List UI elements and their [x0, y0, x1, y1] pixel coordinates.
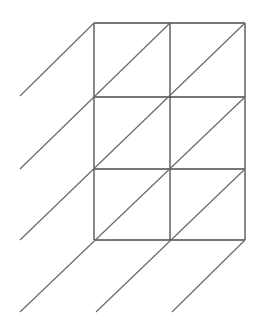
- lattice-grid-diagram: [0, 0, 262, 328]
- diagonal-line: [20, 23, 94, 96]
- diagonal-line: [20, 23, 170, 169]
- grid-lines: [94, 23, 245, 240]
- diagonal-lines: [20, 23, 245, 312]
- diagonal-line: [20, 97, 245, 312]
- diagonal-line: [20, 23, 245, 240]
- diagonal-line: [172, 240, 245, 312]
